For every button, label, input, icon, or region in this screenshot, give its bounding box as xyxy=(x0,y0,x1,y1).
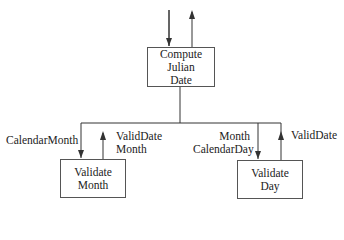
module-label-line: Day xyxy=(260,180,279,193)
module-label-line: Julian xyxy=(167,61,194,74)
flow-label-month-calendar-day: Month CalendarDay xyxy=(193,130,250,156)
flow-label-line: CalendarDay xyxy=(193,143,250,156)
flow-label-line: Month xyxy=(116,143,162,156)
module-label-line: Validate xyxy=(74,166,112,179)
flow-label-valid-date-month: ValidDate Month xyxy=(116,130,162,156)
flow-label-line: ValidDate xyxy=(116,130,162,143)
validate-month-module: Validate Month xyxy=(60,159,126,198)
compute-julian-date-module: Compute Julian Date xyxy=(147,47,215,87)
module-label-line: Compute xyxy=(160,48,202,61)
flow-label-calendar-month: CalendarMonth xyxy=(6,134,78,147)
module-label-line: Month xyxy=(78,179,109,192)
validate-day-module: Validate Day xyxy=(237,160,303,199)
flow-label-valid-date: ValidDate xyxy=(291,129,337,142)
module-label-line: Date xyxy=(170,74,192,87)
flow-label-line: Month xyxy=(193,130,250,143)
module-label-line: Validate xyxy=(251,167,289,180)
